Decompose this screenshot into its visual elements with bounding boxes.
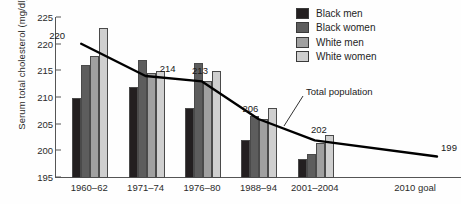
- y-tick-label: 195: [37, 172, 53, 183]
- y-tick-label: 200: [37, 145, 53, 156]
- legend: Black men Black women White men White wo…: [296, 6, 456, 64]
- y-tick-mark: [56, 96, 61, 97]
- trend-data-label: 202: [311, 124, 327, 135]
- legend-item-black-women: Black women: [296, 21, 456, 36]
- x-tick-label: 2001–2004: [291, 182, 339, 193]
- bar: [129, 87, 138, 178]
- bar: [241, 140, 250, 178]
- x-tick-label: 1960–62: [71, 182, 108, 193]
- legend-swatch-icon: [296, 22, 309, 33]
- bar: [147, 73, 156, 178]
- y-tick-label: 205: [37, 118, 53, 129]
- trend-data-label: 206: [242, 102, 258, 113]
- bar: [212, 71, 221, 178]
- legend-swatch-icon: [296, 8, 309, 19]
- bar: [298, 159, 307, 178]
- bar: [81, 65, 90, 178]
- chart-container: Serum total cholesterol (mg/dl) 225 220 …: [0, 0, 461, 204]
- bar: [203, 81, 212, 178]
- bar: [194, 63, 203, 178]
- y-tick-mark: [56, 16, 61, 17]
- bar: [185, 108, 194, 178]
- trend-data-label: 199: [441, 141, 457, 152]
- y-tick-label: 210: [37, 92, 53, 103]
- legend-swatch-icon: [296, 37, 309, 48]
- legend-item-white-women: White women: [296, 50, 456, 65]
- bar: [72, 98, 81, 179]
- y-tick-label: 215: [37, 65, 53, 76]
- y-tick-mark: [56, 150, 61, 151]
- y-tick-mark: [56, 70, 61, 71]
- bar: [250, 116, 259, 178]
- x-tick-label: 1971–74: [127, 182, 164, 193]
- y-tick-225: 225: [37, 12, 56, 23]
- x-tick-label: 2010 goal: [394, 182, 436, 193]
- bar: [156, 71, 165, 178]
- y-tick-205: 205: [37, 118, 56, 129]
- bar: [268, 108, 277, 178]
- legend-item-white-men: White men: [296, 35, 456, 50]
- legend-label: White women: [316, 51, 377, 62]
- y-tick-210: 210: [37, 92, 56, 103]
- trend-data-label: 220: [49, 29, 65, 40]
- bar: [316, 143, 325, 178]
- y-tick-200: 200: [37, 145, 56, 156]
- bar: [307, 154, 316, 178]
- x-axis-extension: [385, 177, 461, 178]
- bar: [90, 56, 99, 178]
- y-tick-mark: [56, 123, 61, 124]
- trend-data-label: 213: [192, 65, 208, 76]
- bar: [325, 135, 334, 178]
- trend-data-label: 214: [160, 63, 176, 74]
- legend-label: White men: [316, 37, 364, 48]
- y-tick-215: 215: [37, 65, 56, 76]
- total-population-annotation: Total population: [306, 86, 373, 97]
- bar: [259, 119, 268, 178]
- y-tick-195: 195: [37, 172, 56, 183]
- x-tick-label: 1988–94: [240, 182, 277, 193]
- legend-label: Black men: [316, 8, 363, 19]
- bar: [138, 60, 147, 178]
- y-tick-mark: [56, 176, 61, 177]
- y-axis-title: Serum total cholesterol (mg/dl): [16, 0, 27, 149]
- y-tick-label: 225: [37, 12, 53, 23]
- legend-swatch-icon: [296, 51, 309, 62]
- bar: [99, 28, 108, 178]
- y-tick-mark: [56, 43, 61, 44]
- legend-label: Black women: [316, 22, 375, 33]
- legend-item-black-men: Black men: [296, 6, 456, 21]
- x-tick-label: 1976–80: [184, 182, 221, 193]
